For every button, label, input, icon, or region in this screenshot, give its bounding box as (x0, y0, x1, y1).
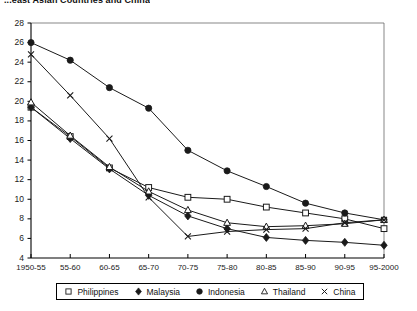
legend-label: Thailand (273, 287, 306, 297)
chart-container: ...east Asian Countries and China 282624… (0, 0, 417, 311)
legend-item-indonesia[interactable]: Indonesia (195, 287, 245, 297)
data-point-filled-diamond (302, 236, 308, 244)
series-indonesia (28, 39, 387, 222)
y-axis-tick-label: 24 (4, 57, 24, 67)
y-axis-tick-label: 26 (4, 37, 24, 47)
data-point-open-square (263, 204, 269, 210)
data-point-filled-diamond (342, 238, 348, 246)
filled-circle-icon (195, 287, 204, 296)
data-point-filled-circle (263, 183, 269, 189)
legend-label: Malaysia (147, 287, 181, 297)
series-malaysia (28, 103, 387, 249)
data-point-open-square (224, 196, 230, 202)
series-line-philippines (31, 107, 384, 228)
y-axis-tick-label: 16 (4, 135, 24, 145)
data-point-filled-diamond (381, 241, 387, 249)
y-axis-tick-label: 8 (4, 213, 24, 223)
data-point-open-square (303, 210, 309, 216)
data-point-filled-circle (342, 210, 348, 216)
legend-label: Philippines (77, 287, 118, 297)
open-triangle-icon (260, 287, 269, 296)
data-point-filled-circle (67, 57, 73, 63)
data-point-filled-diamond (135, 288, 141, 295)
legend-item-philippines[interactable]: Philippines (64, 287, 118, 297)
data-point-filled-circle (302, 200, 308, 206)
series-line-indonesia (31, 43, 384, 220)
open-square-icon (64, 287, 73, 296)
data-point-filled-circle (224, 168, 230, 174)
data-point-filled-circle (106, 85, 112, 91)
y-axis-tick-label: 20 (4, 96, 24, 106)
legend-item-thailand[interactable]: Thailand (260, 287, 306, 297)
data-point-filled-circle (28, 39, 34, 45)
y-axis-tick-label: 12 (4, 174, 24, 184)
data-point-filled-circle (185, 147, 191, 153)
legend-label: China (333, 287, 355, 297)
x-axis-tick-label: 95-2000 (360, 263, 408, 272)
y-axis-tick-label: 22 (4, 76, 24, 86)
series-philippines (28, 104, 387, 231)
data-point-open-square (185, 194, 191, 200)
filled-diamond-icon (134, 287, 143, 296)
data-point-filled-circle (146, 105, 152, 111)
legend-label: Indonesia (208, 287, 245, 297)
data-point-open-triangle (184, 206, 191, 212)
y-axis-tick-label: 18 (4, 115, 24, 125)
y-axis-tick-label: 14 (4, 155, 24, 165)
data-point-open-triangle (261, 288, 267, 294)
chart-legend: PhilippinesMalaysiaIndonesiaThailandChin… (56, 283, 364, 300)
legend-item-malaysia[interactable]: Malaysia (134, 287, 181, 297)
legend-item-china[interactable]: China (320, 287, 355, 297)
y-axis-tick-label: 6 (4, 233, 24, 243)
y-axis-tick-label: 4 (4, 253, 24, 263)
series-line-thailand (31, 102, 384, 226)
cross-x-icon (320, 287, 329, 296)
data-point-filled-circle (197, 289, 203, 295)
data-point-filled-diamond (263, 233, 269, 241)
data-point-open-square (66, 289, 71, 294)
y-axis-tick-label: 10 (4, 194, 24, 204)
data-point-open-square (381, 226, 387, 232)
y-axis-tick-label: 28 (4, 18, 24, 28)
